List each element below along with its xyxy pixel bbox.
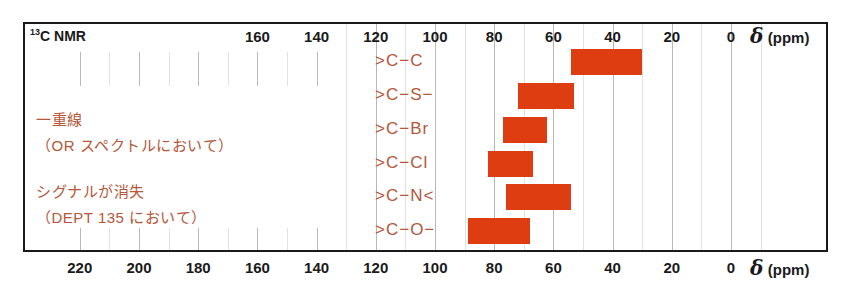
shift-range-bar: [518, 83, 574, 109]
gridline: [287, 52, 288, 86]
group-label: >C−S−: [375, 85, 433, 105]
gridline: [257, 52, 258, 86]
tick-label-top: 80: [486, 28, 503, 45]
shift-range-bar: [503, 117, 547, 143]
shift-range-bar: [571, 49, 642, 75]
tick-label-bottom: 60: [545, 259, 562, 276]
gridline: [109, 52, 110, 86]
tick-label-top: 60: [545, 28, 562, 45]
unit-label: (ppm): [768, 261, 810, 278]
tick-label-bottom: 80: [486, 259, 503, 276]
annotation-dept-line1: シグナルが消失: [36, 180, 145, 201]
gridline: [80, 228, 81, 250]
gridline: [139, 228, 140, 250]
gridline: [642, 24, 643, 250]
shift-range-bar: [468, 218, 530, 244]
tick-label-bottom: 20: [663, 259, 680, 276]
gridline: [317, 52, 318, 86]
annotation-singlet-line1: 一重線: [36, 108, 83, 129]
annotation-singlet-line2: （OR スペクトルにおいて）: [36, 134, 234, 155]
tick-label-top: 120: [363, 28, 388, 45]
gridline: [228, 228, 229, 250]
gridline: [198, 52, 199, 86]
axis-unit-bottom: δ (ppm): [750, 256, 809, 280]
tick-label-bottom: 0: [727, 259, 735, 276]
gridline: [169, 228, 170, 250]
group-label: >C−O−: [375, 220, 435, 240]
gridline: [553, 24, 554, 250]
title-text: C NMR: [40, 28, 86, 44]
gridline: [672, 24, 673, 250]
annotation-dept-line2: （DEPT 135 において）: [36, 206, 207, 227]
gridline: [465, 24, 466, 250]
tick-label-bottom: 160: [245, 259, 270, 276]
gridline: [169, 52, 170, 86]
delta-symbol: δ: [750, 24, 763, 48]
tick-label-bottom: 100: [422, 259, 447, 276]
axis-unit-top: δ (ppm): [750, 24, 809, 48]
gridline: [198, 228, 199, 250]
gridline: [731, 24, 732, 250]
tick-label-top: 160: [245, 28, 270, 45]
gridline: [257, 228, 258, 250]
gridline: [346, 24, 347, 250]
gridline: [228, 52, 229, 86]
shift-range-bar: [488, 151, 532, 177]
chart-title: 13C NMR: [30, 27, 86, 44]
tick-label-bottom: 180: [186, 259, 211, 276]
gridline: [287, 228, 288, 250]
gridline: [80, 52, 81, 86]
gridline: [317, 228, 318, 250]
tick-label-top: 100: [422, 28, 447, 45]
group-label: >C−N<: [375, 186, 434, 206]
group-label: >C−Br: [375, 119, 429, 139]
tick-label-top: 40: [604, 28, 621, 45]
title-superscript: 13: [30, 27, 40, 37]
tick-label-bottom: 220: [67, 259, 92, 276]
tick-label-bottom: 40: [604, 259, 621, 276]
tick-label-top: 20: [663, 28, 680, 45]
unit-label: (ppm): [768, 29, 810, 46]
group-label: >C−C: [375, 51, 423, 71]
tick-label-bottom: 140: [304, 259, 329, 276]
gridline: [701, 24, 702, 250]
gridline: [109, 228, 110, 250]
gridline: [435, 24, 436, 250]
tick-label-bottom: 200: [126, 259, 151, 276]
delta-symbol: δ: [750, 256, 763, 280]
tick-label-top: 140: [304, 28, 329, 45]
gridline: [139, 52, 140, 86]
gridline: [494, 24, 495, 250]
gridline: [761, 24, 762, 250]
nmr-shift-chart: 13C NMR 16014012010080604020022020018016…: [0, 0, 860, 296]
tick-label-bottom: 120: [363, 259, 388, 276]
shift-range-bar: [506, 184, 571, 210]
tick-label-top: 0: [727, 28, 735, 45]
group-label: >C−Cl: [375, 153, 428, 173]
